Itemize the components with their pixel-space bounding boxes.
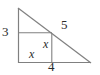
label-base-segment: 4 bbox=[48, 60, 55, 73]
geometry-figure: 3 5 4 x x bbox=[0, 0, 100, 75]
label-hypotenuse: 5 bbox=[61, 18, 68, 31]
label-left-leg: 3 bbox=[2, 25, 9, 38]
label-square-vertical-side: x bbox=[43, 38, 48, 50]
label-square-horizontal-side: x bbox=[29, 48, 34, 60]
